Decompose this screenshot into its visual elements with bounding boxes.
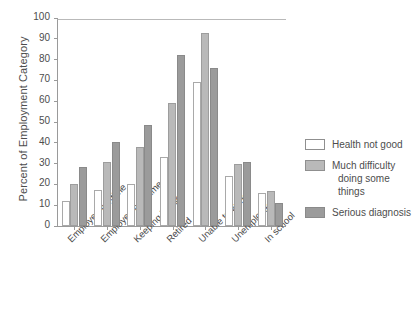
bar-group xyxy=(160,20,185,226)
y-axis-tick-label: 80 xyxy=(20,53,50,64)
y-axis-tick-label: 0 xyxy=(20,219,50,230)
bar xyxy=(234,164,242,226)
y-axis-tick-label: 40 xyxy=(20,136,50,147)
chart-legend: Health not goodMuch difficultydoing some… xyxy=(305,138,412,227)
y-axis-tick-label: 90 xyxy=(20,32,50,43)
bar xyxy=(70,184,78,226)
y-axis-tick-label: 100 xyxy=(20,11,50,22)
bar xyxy=(127,184,135,226)
y-axis-tick-label: 50 xyxy=(20,115,50,126)
y-axis-tick-label: 60 xyxy=(20,94,50,105)
plot-area: 0102030405060708090100 xyxy=(57,19,286,227)
bar xyxy=(62,201,70,226)
bar xyxy=(160,157,168,226)
legend-label: Health not good xyxy=(332,138,403,151)
bar xyxy=(177,55,185,226)
y-axis-tick-label: 70 xyxy=(20,73,50,84)
bar xyxy=(275,203,283,226)
bar xyxy=(201,33,209,226)
legend-item: Health not good xyxy=(305,138,412,151)
bar xyxy=(103,162,111,226)
bar-group xyxy=(225,20,250,226)
bar xyxy=(193,82,201,226)
bar-chart: Percent of Employment Category 010203040… xyxy=(0,0,412,314)
bar-group xyxy=(62,20,87,226)
legend-swatch xyxy=(305,139,325,150)
legend-item: Much difficultydoing some things xyxy=(305,159,412,198)
bar xyxy=(225,176,233,226)
bars-layer xyxy=(58,20,286,226)
bar-group xyxy=(127,20,152,226)
bar xyxy=(79,167,87,226)
bar-group xyxy=(94,20,119,226)
bar xyxy=(112,142,120,226)
bar xyxy=(136,147,144,226)
bar-group xyxy=(193,20,218,226)
bar xyxy=(144,125,152,226)
legend-item: Serious diagnosis xyxy=(305,206,412,219)
tick-mark xyxy=(54,18,58,19)
bar xyxy=(168,103,176,226)
bar xyxy=(243,162,251,226)
bar xyxy=(94,190,102,226)
legend-swatch xyxy=(305,160,325,171)
legend-label-line2: doing some things xyxy=(332,172,412,198)
y-axis-tick-label: 30 xyxy=(20,157,50,168)
bar xyxy=(258,193,266,226)
legend-label: Serious diagnosis xyxy=(332,206,411,219)
legend-swatch xyxy=(305,207,325,218)
y-axis-tick-label: 10 xyxy=(20,198,50,209)
y-axis-tick-label: 20 xyxy=(20,177,50,188)
bar xyxy=(210,68,218,226)
bar xyxy=(267,191,275,226)
bar-group xyxy=(258,20,283,226)
legend-label: Much difficultydoing some things xyxy=(332,159,412,198)
